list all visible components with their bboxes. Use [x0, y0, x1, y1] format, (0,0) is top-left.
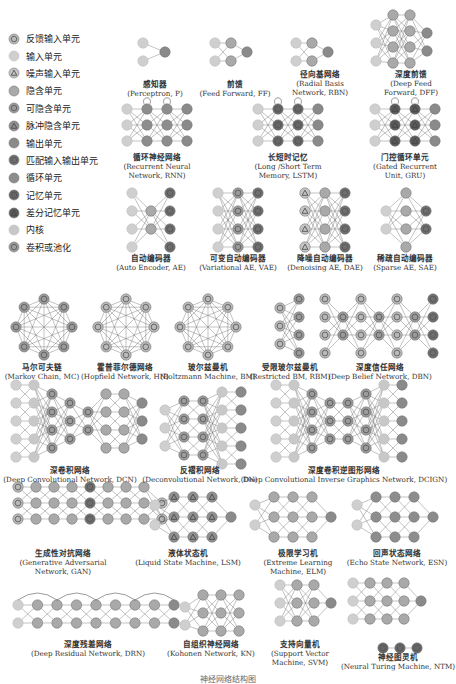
legend-label: 脉冲隐含单元 [26, 119, 80, 132]
caption-zh: 受限玻尔兹曼机 [250, 363, 331, 372]
caption-en: Network, GAN) [19, 567, 106, 576]
caption-dcign: 深度卷积逆图形网络(Deep Convolutional Inverse Gra… [241, 466, 447, 484]
network-dn [160, 387, 246, 469]
network-dae [300, 188, 350, 252]
caption-drn: 深度残差网络(Deep Residual Network, DRN) [31, 640, 145, 658]
legend-label: 差分记忆单元 [26, 206, 80, 219]
legend-item: 输出单元 [8, 134, 98, 151]
legend-item: 差分记忆单元 [8, 204, 98, 221]
caption-zh: 支持向量机 [271, 640, 329, 649]
caption-bm: 玻尔兹曼机(Boltzmann Machine, BM) [160, 363, 256, 381]
caption-elm: 极限学习机(Extreme LearningMachine, ELM) [264, 549, 333, 576]
network-dcn [11, 380, 147, 462]
caption-en: Memory, LSTM) [254, 171, 321, 180]
caption-zh: 降噪自动编码器 [287, 254, 363, 263]
caption-dcn: 深卷积网络(Deep Convolutional Network, DCN) [3, 466, 136, 484]
caption-en: (Support Vector [271, 649, 329, 658]
caption-en: Machine, SVM) [271, 658, 329, 667]
caption-gru: 门控循环单元(Gated RecurrentUnit, GRU) [373, 153, 437, 180]
caption-zh: 生成性对抗网络 [19, 549, 106, 558]
network-kohonen [180, 590, 244, 636]
network-markov-chain [11, 294, 77, 360]
caption-en: (Generative Adversarial [19, 558, 106, 567]
output-cell-icon [8, 137, 20, 149]
caption-ntm: 神经图灵机(Neural Turing Machine, NTM) [341, 653, 455, 671]
legend-item: 输入单元 [8, 47, 98, 64]
caption-en: Forward, DFF) [384, 88, 438, 97]
caption-dbn: 深度信任网络(Deep Belief Network, DBN) [328, 363, 432, 381]
caption-lstm: 长短时记忆(Long /Short TermMemory, LSTM) [254, 153, 321, 180]
caption-en: Machine, ELM) [264, 567, 333, 576]
caption-en: (Radial Basis [292, 79, 348, 88]
legend-label: 匹配输入输出单元 [26, 154, 98, 167]
network-rbn [291, 38, 333, 66]
caption-ae: 自动编码器(Auto Encoder, AE) [116, 254, 186, 272]
legend-item: 记忆单元 [8, 187, 98, 204]
caption-hn: 霍普菲尔德网络(Hopfield Network, HN) [81, 363, 169, 381]
legend-item: 脉冲隐含单元 [8, 117, 98, 134]
caption-en: (Feed Forward, FF) [200, 89, 271, 98]
caption-en: (Auto Encoder, AE) [116, 263, 186, 272]
legend-label: 噪声输入单元 [26, 67, 80, 80]
caption-en: (Kohonen Network, KN) [167, 649, 255, 658]
caption-zh: 极限学习机 [264, 549, 333, 558]
ntm-memory-cells [378, 643, 422, 653]
legend-label: 卷积或池化 [26, 241, 71, 254]
caption-zh: 门控循环单元 [373, 153, 437, 162]
caption-zh: 神经图灵机 [341, 653, 455, 662]
caption-en: (Denoising AE, DAE) [287, 263, 363, 272]
caption-en: (Perceptron, P) [127, 89, 182, 98]
network-boltzmann [175, 294, 241, 360]
caption-gan: 生成性对抗网络(Generative AdversarialNetwork, G… [19, 549, 106, 576]
caption-en: (Deep Residual Network, DRN) [31, 649, 145, 658]
caption-en: Network, RNN) [123, 171, 190, 180]
network-ae [127, 188, 175, 252]
noisy-input-cell-icon [8, 67, 20, 79]
caption-mc: 马尔可夫链(Markov Chain, MC) [5, 363, 80, 381]
caption-zh: 霍普菲尔德网络 [81, 363, 169, 372]
legend-label: 可隐含单元 [26, 102, 71, 115]
caption-rbn: 径向基网络(Radial BasisNetwork, RBN) [292, 70, 348, 97]
caption-en: (Gated Recurrent [373, 162, 437, 171]
spiking-hidden-cell-icon [8, 120, 20, 132]
legend-item: 卷积或池化 [8, 239, 98, 256]
caption-zh: 循环神经网络 [123, 153, 190, 162]
caption-ff: 前馈(Feed Forward, FF) [200, 80, 271, 98]
caption-en: (Neural Turing Machine, NTM) [341, 662, 455, 671]
caption-en: (Restricted BM, RBM) [250, 372, 331, 381]
backfed-input-cell-icon [8, 33, 20, 45]
legend-label: 反馈输入单元 [26, 32, 80, 45]
caption-en: (Sparse AE, SAE) [373, 263, 436, 272]
legend-label: 输出单元 [26, 137, 62, 150]
caption-lsm: 液体状态机(Liquid State Machine, LSM) [135, 549, 241, 567]
caption-sae: 稀疏自动编码器(Sparse AE, SAE) [373, 254, 436, 272]
legend-item: 可隐含单元 [8, 100, 98, 117]
different-memory-cell-icon [8, 207, 20, 219]
caption-en: (Deep Belief Network, DBN) [328, 372, 432, 381]
caption-en: Network, RBN) [292, 88, 348, 97]
caption-en: (Recurrent Neural [123, 162, 190, 171]
legend-item: 反馈输入单元 [8, 30, 98, 47]
caption-en: (Long /Short Term [254, 162, 321, 171]
input-cell-icon [8, 50, 20, 62]
caption-rnn: 循环神经网络(Recurrent NeuralNetwork, RNN) [123, 153, 190, 180]
network-esn [352, 492, 438, 542]
legend-item: 循环单元 [8, 169, 98, 186]
caption-zh: 马尔可夫链 [5, 363, 80, 372]
network-rbm [275, 294, 304, 358]
caption-zh: 径向基网络 [292, 70, 348, 79]
caption-zh: 玻尔兹曼机 [160, 363, 256, 372]
caption-en: (Deep Convolutional Network, DCN) [3, 475, 136, 484]
caption-zh: 深度前馈 [384, 70, 438, 79]
network-vae [213, 188, 263, 252]
caption-kn: 自组织神经网络(Kohonen Network, KN) [167, 640, 255, 658]
conv-pool-icon [8, 241, 20, 253]
caption-en: (Extreme Learning [264, 558, 333, 567]
drn-skip-connections [18, 593, 174, 600]
caption-zh: 深卷积网络 [3, 466, 136, 475]
network-dff [371, 10, 432, 68]
caption-esn: 回声状态网络(Echo State Network, ESN) [347, 549, 447, 567]
network-hopfield [93, 294, 159, 360]
probabilistic-hidden-cell-icon [8, 102, 20, 114]
legend-item: 噪声输入单元 [8, 65, 98, 82]
